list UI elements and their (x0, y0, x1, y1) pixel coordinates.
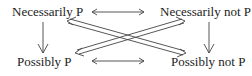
bottom-double-arrow (92, 58, 144, 64)
node-possibly-not-p: Possibly not P (171, 55, 245, 69)
right-down-arrow (204, 22, 214, 53)
node-possibly-p: Possibly P (17, 55, 72, 69)
node-necessarily-p: Necessarily P (12, 5, 83, 19)
diagonal-arrow-tr-bl (75, 17, 185, 56)
top-double-arrow (92, 9, 144, 15)
node-necessarily-not-p: Necessarily not P (160, 5, 251, 19)
left-down-arrow (38, 22, 48, 53)
